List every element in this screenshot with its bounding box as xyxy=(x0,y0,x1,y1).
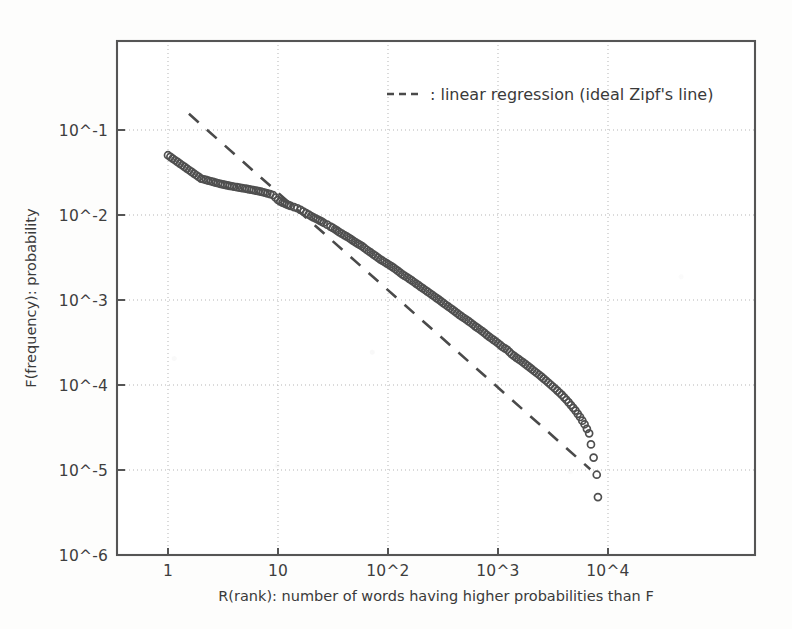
x-tick-label-10: 10 xyxy=(268,562,288,580)
legend-entry-label: : linear regression (ideal Zipf's line) xyxy=(430,85,713,104)
y-tick-label-1e-2: 10^-2 xyxy=(59,207,108,225)
chart-canvas: 1 10 10^2 10^3 10^4 10^-1 10^-2 10^-3 10… xyxy=(0,0,792,629)
x-tick-label-10000: 10^4 xyxy=(586,562,629,580)
y-tick-label-1e-4: 10^-4 xyxy=(59,377,108,395)
y-tick-label-1e-3: 10^-3 xyxy=(59,292,108,310)
x-tick-label-1: 1 xyxy=(163,562,173,580)
x-tick-label-1000: 10^3 xyxy=(476,562,519,580)
y-tick-labels: 10^-1 10^-2 10^-3 10^-4 10^-5 10^-6 xyxy=(59,122,108,565)
x-axis-title: R(rank): number of words having higher p… xyxy=(218,588,654,604)
x-tick-label-100: 10^2 xyxy=(366,562,409,580)
y-tick-label-1e-1: 10^-1 xyxy=(59,122,108,140)
y-tick-label-1e-5: 10^-5 xyxy=(59,462,108,480)
zipf-law-figure: 1 10 10^2 10^3 10^4 10^-1 10^-2 10^-3 10… xyxy=(0,0,792,629)
y-axis-title: F(frequency): probability xyxy=(23,208,39,388)
x-tick-labels: 1 10 10^2 10^3 10^4 xyxy=(163,562,630,580)
legend: : linear regression (ideal Zipf's line) xyxy=(387,85,713,104)
y-tick-label-1e-6: 10^-6 xyxy=(59,547,108,565)
